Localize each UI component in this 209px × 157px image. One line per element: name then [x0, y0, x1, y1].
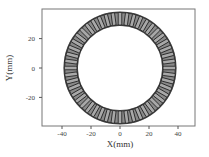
y-axis-label: Y(mm): [4, 55, 14, 82]
coil-segment: [118, 12, 122, 25]
coil-segment: [118, 111, 122, 124]
y-tick-label: 20: [28, 35, 36, 43]
x-tick-label: 0: [118, 130, 122, 138]
x-tick-label: 20: [146, 130, 154, 138]
x-tick-label: 40: [175, 130, 183, 138]
x-tick-label: -40: [57, 130, 67, 138]
chart: -40-2002040 200-20 X(mm) Y(mm): [0, 0, 209, 157]
y-tick-label: -20: [26, 94, 36, 102]
y-axis-ticks: 200-20: [26, 35, 42, 102]
x-tick-label: -20: [86, 130, 96, 138]
y-tick-label: 0: [32, 65, 36, 73]
x-axis-label: X(mm): [107, 139, 134, 149]
x-axis-ticks: -40-2002040: [57, 126, 182, 138]
coil-segment: [163, 66, 176, 70]
coil-segment: [64, 66, 77, 70]
